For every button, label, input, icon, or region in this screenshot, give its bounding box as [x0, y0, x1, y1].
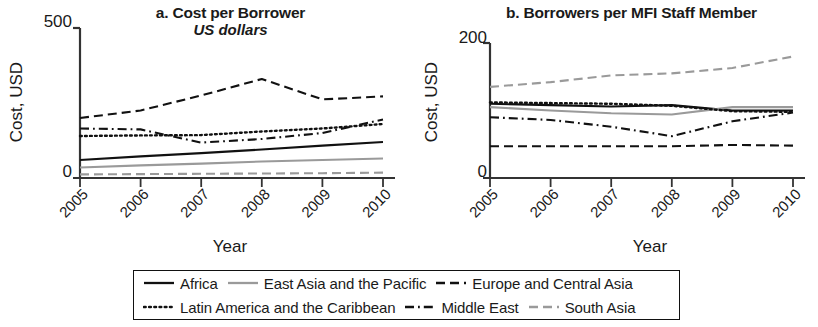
panel-a-y-tick-top: 500 — [20, 12, 72, 32]
x-tick-label: 2007 — [177, 185, 213, 221]
legend-line-sample — [143, 301, 175, 313]
legend-label: Latin America and the Caribbean — [180, 299, 395, 316]
legend-line-sample — [143, 277, 175, 289]
series-line-south-asia — [490, 57, 793, 87]
panel-b-y-axis-label: Cost, USD — [422, 47, 442, 157]
legend-swatch — [404, 301, 436, 313]
legend-label: Europe and Central Asia — [472, 275, 632, 292]
legend-label: East Asia and the Pacific — [264, 275, 427, 292]
legend-label: Africa — [180, 275, 218, 292]
series-line-middle-east — [490, 113, 793, 137]
x-tick-label: 2010 — [769, 185, 805, 221]
series-line-europe-and-central-asia — [80, 79, 383, 118]
legend-item-latin-america-and-the-caribbean[interactable]: Latin America and the Caribbean — [143, 299, 395, 316]
legend-swatch — [227, 277, 259, 289]
series-line-east-asia-and-the-pacific — [80, 159, 383, 168]
legend-line-sample — [404, 301, 436, 313]
x-tick-label: 2007 — [587, 185, 623, 221]
x-tick-label: 2005 — [466, 185, 502, 221]
x-tick-label: 2009 — [708, 185, 744, 221]
legend-item-middle-east[interactable]: Middle East — [404, 299, 518, 316]
legend-line-sample — [528, 301, 560, 313]
x-tick-label: 2008 — [237, 185, 273, 221]
series-line-europe-and-central-asia — [490, 145, 793, 146]
legend-line-sample — [435, 277, 467, 289]
x-tick-label: 2008 — [647, 185, 683, 221]
x-tick-label: 2010 — [359, 185, 395, 221]
chart-panel-a: a. Cost per Borrower US dollars Cost, US… — [0, 0, 415, 262]
x-tick-label: 2006 — [116, 185, 152, 221]
series-line-africa — [80, 142, 383, 160]
legend-row: AfricaEast Asia and the PacificEurope an… — [134, 271, 679, 295]
legend-swatch — [435, 277, 467, 289]
legend-item-europe-and-central-asia[interactable]: Europe and Central Asia — [435, 275, 632, 292]
panel-a-x-axis-label: Year — [100, 237, 360, 257]
panel-b-y-tick-bottom: 0 — [435, 162, 487, 182]
legend-line-sample — [227, 277, 259, 289]
panel-b-y-tick-top: 200 — [435, 28, 487, 48]
x-tick-label: 2006 — [526, 185, 562, 221]
series-line-middle-east — [80, 120, 383, 143]
legend-item-south-asia[interactable]: South Asia — [528, 299, 636, 316]
x-tick-label: 2009 — [298, 185, 334, 221]
legend-item-africa[interactable]: Africa — [143, 275, 218, 292]
legend-swatch — [528, 301, 560, 313]
legend-label: South Asia — [565, 299, 636, 316]
panel-b-title: b. Borrowers per MFI Staff Member — [415, 4, 818, 21]
legend-swatch — [143, 301, 175, 313]
legend-item-east-asia-and-the-pacific[interactable]: East Asia and the Pacific — [227, 275, 427, 292]
panel-a-y-tick-bottom: 0 — [20, 162, 72, 182]
panel-a-plot-area: 200520062007200820092010 — [0, 0, 415, 262]
figure-container: a. Cost per Borrower US dollars Cost, US… — [0, 0, 818, 327]
x-tick-label: 2005 — [56, 185, 92, 221]
legend-row: Latin America and the CaribbeanMiddle Ea… — [134, 295, 679, 319]
panel-b-x-axis-label: Year — [520, 237, 780, 257]
legend-label: Middle East — [441, 299, 518, 316]
chart-legend: AfricaEast Asia and the PacificEurope an… — [133, 270, 680, 320]
legend-swatch — [143, 277, 175, 289]
series-line-south-asia — [80, 173, 383, 175]
panel-a-y-axis-label: Cost, USD — [7, 47, 27, 157]
